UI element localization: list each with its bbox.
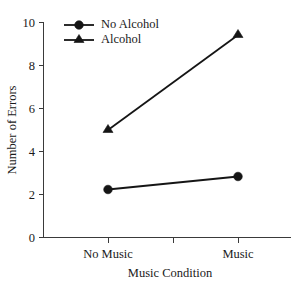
y-tick-label-4: 4 (29, 145, 36, 159)
x-axis-title: Music Condition (128, 266, 213, 280)
x-category-label-no-music: No Music (83, 247, 133, 261)
y-tick-label-0: 0 (29, 231, 35, 245)
y-tick-label-2: 2 (29, 188, 35, 202)
chart-canvas: 0 2 4 6 8 10 No Music Music Music Condit… (0, 0, 307, 287)
legend-entry-no-alcohol[interactable]: No Alcohol (64, 17, 160, 31)
legend-label-no-alcohol: No Alcohol (101, 17, 160, 31)
y-tick-label-6: 6 (29, 102, 35, 116)
series-line-alcohol (108, 35, 238, 130)
triangle-marker-alcohol-music (233, 30, 243, 38)
series-line-no-alcohol (108, 177, 238, 190)
circle-marker-legend (75, 21, 84, 30)
errors-by-music-condition-chart: 0 2 4 6 8 10 No Music Music Music Condit… (0, 0, 307, 287)
legend: No Alcohol Alcohol (64, 17, 160, 46)
y-axis-title: Number of Errors (5, 85, 19, 174)
legend-label-alcohol: Alcohol (101, 32, 142, 46)
circle-marker-no-alcohol-no-music (104, 185, 113, 194)
x-category-label-music: Music (222, 247, 254, 261)
legend-entry-alcohol[interactable]: Alcohol (64, 32, 142, 46)
y-tick-label-10: 10 (23, 16, 36, 30)
y-tick-label-8: 8 (29, 59, 35, 73)
circle-marker-no-alcohol-music (234, 172, 243, 181)
triangle-marker-legend (74, 35, 84, 43)
